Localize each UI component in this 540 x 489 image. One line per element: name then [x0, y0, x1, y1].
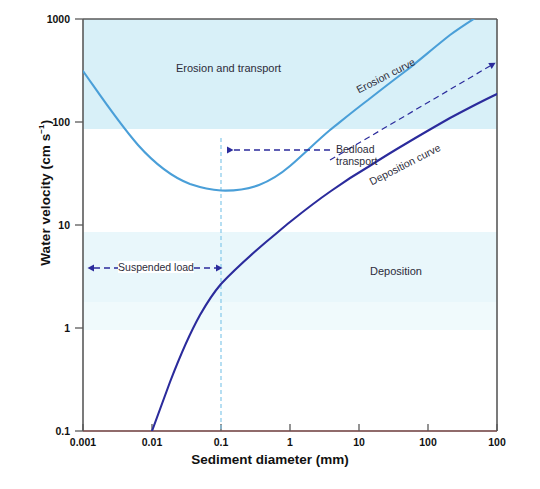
- y-axis-ticks: [75, 19, 83, 431]
- y-axis-title-text: Water velocity (cm s: [38, 134, 53, 266]
- band-lower: [83, 302, 497, 330]
- band-upper: [83, 19, 497, 129]
- y-tick-label-0.1: 0.1: [30, 425, 70, 437]
- y-tick-label-10: 10: [30, 219, 70, 231]
- suspended-load-label: Suspended load: [118, 261, 194, 273]
- chart-figure: Water velocity (cm s−1) Sediment diamete…: [0, 0, 540, 489]
- x-tick-label-2: 0.1: [214, 436, 229, 448]
- x-tick-label-0: 0.001: [70, 436, 96, 448]
- deposition-label: Deposition: [370, 265, 422, 277]
- x-tick-label-1: 0.01: [142, 436, 162, 448]
- y-tick-label-1: 1: [30, 322, 70, 334]
- x-axis-title: Sediment diameter (mm): [0, 452, 540, 467]
- bedload-transport-line1: Bedload: [336, 143, 377, 155]
- x-tick-label-3: 1: [287, 436, 293, 448]
- x-tick-label-6: 100: [488, 436, 506, 448]
- x-tick-label-5: 100: [419, 436, 437, 448]
- bedload-transport-line2: transport: [336, 155, 377, 167]
- bedload-transport-label: Bedload transport: [336, 143, 377, 167]
- erosion-and-transport-label: Erosion and transport: [176, 62, 281, 74]
- y-axis-title: Water velocity (cm s−1): [37, 63, 53, 323]
- y-tick-label-1000: 1000: [30, 13, 70, 25]
- x-tick-label-4: 10: [353, 436, 365, 448]
- y-tick-label-100: 100: [30, 116, 70, 128]
